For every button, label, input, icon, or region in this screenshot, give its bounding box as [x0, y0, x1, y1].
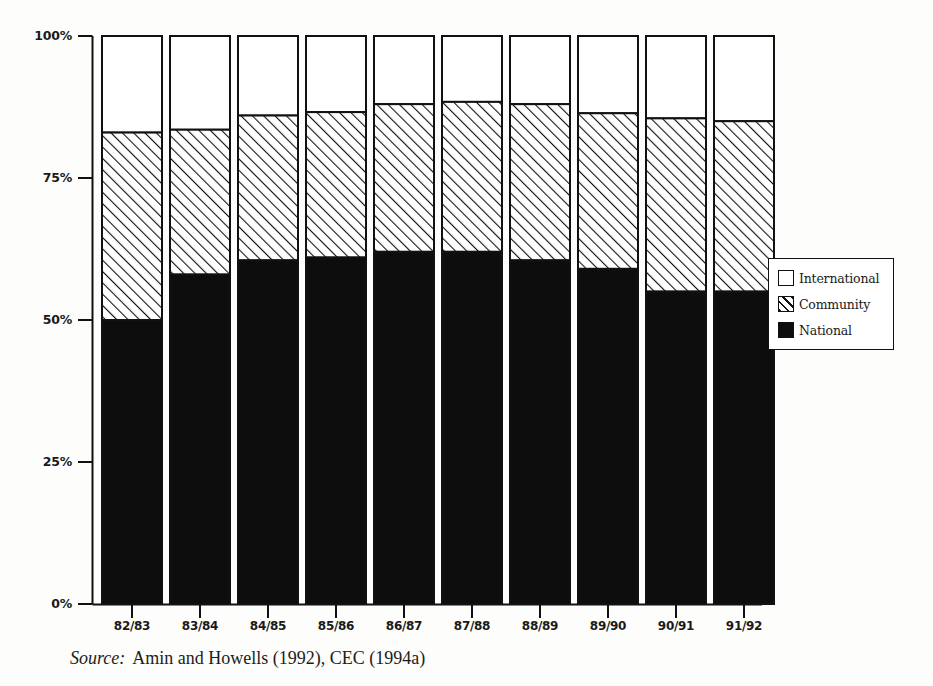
- y-tick-label: 50%: [10, 312, 72, 327]
- bar-column: [374, 36, 434, 604]
- x-tick-label: 86/87: [370, 619, 438, 633]
- x-axis-ticks: [132, 604, 744, 618]
- legend-item-international: International: [778, 265, 893, 291]
- bar-column: [238, 36, 298, 604]
- bar-segment-international: [578, 36, 638, 113]
- bar-segment-national: [374, 252, 434, 604]
- legend-item-national: National: [778, 317, 893, 343]
- bar-segment-community: [646, 118, 706, 291]
- bar-segment-international: [442, 36, 502, 102]
- bar-segment-international: [170, 36, 230, 130]
- bar-segment-international: [238, 36, 298, 116]
- bar-column: [714, 36, 774, 604]
- legend-label-international: International: [799, 271, 879, 286]
- source-prefix: Source:: [70, 648, 125, 668]
- bar-group: [102, 36, 774, 604]
- x-tick-label: 84/85: [234, 619, 302, 633]
- x-tick-label: 83/84: [166, 619, 234, 633]
- bar-segment-community: [578, 113, 638, 269]
- bar-segment-international: [306, 36, 366, 112]
- bar-segment-community: [510, 104, 570, 260]
- bar-segment-community: [714, 121, 774, 291]
- legend-item-community: Community: [778, 291, 893, 317]
- y-tick-label: 25%: [10, 454, 72, 469]
- bar-segment-national: [510, 260, 570, 604]
- bar-column: [646, 36, 706, 604]
- chart-legend: International Community National: [768, 258, 894, 350]
- bar-segment-national: [306, 258, 366, 604]
- source-caption: Source:Amin and Howells (1992), CEC (199…: [70, 648, 425, 669]
- legend-label-national: National: [799, 323, 852, 338]
- bar-column: [170, 36, 230, 604]
- bar-segment-community: [170, 130, 230, 275]
- x-tick-label: 85/86: [302, 619, 370, 633]
- bar-segment-community: [374, 104, 434, 252]
- y-tick-label: 100%: [10, 28, 72, 43]
- x-tick-label: 88/89: [506, 619, 574, 633]
- bar-column: [442, 36, 502, 604]
- x-tick-label: 82/83: [98, 619, 166, 633]
- legend-swatch-national-icon: [778, 322, 794, 338]
- x-tick-label: 89/90: [574, 619, 642, 633]
- source-text: Amin and Howells (1992), CEC (1994a): [132, 648, 425, 668]
- bar-segment-community: [238, 116, 298, 261]
- x-tick-label: 87/88: [438, 619, 506, 633]
- bar-segment-national: [102, 320, 162, 604]
- x-tick-label: 91/92: [710, 619, 778, 633]
- bar-segment-national: [170, 275, 230, 604]
- bar-column: [510, 36, 570, 604]
- bar-segment-international: [374, 36, 434, 104]
- bar-segment-national: [646, 292, 706, 604]
- bar-column: [306, 36, 366, 604]
- legend-swatch-international-icon: [778, 270, 794, 286]
- bar-segment-international: [646, 36, 706, 118]
- bar-segment-community: [442, 102, 502, 252]
- bar-segment-international: [714, 36, 774, 121]
- bar-segment-international: [102, 36, 162, 133]
- bar-segment-national: [442, 252, 502, 604]
- bar-segment-community: [306, 112, 366, 257]
- y-tick-label: 75%: [10, 170, 72, 185]
- bar-segment-national: [578, 269, 638, 604]
- bar-segment-national: [714, 292, 774, 604]
- stacked-bar-chart-figure: 0%25%50%75%100% 82/8383/8484/8585/8686/8…: [0, 0, 933, 686]
- x-tick-label: 90/91: [642, 619, 710, 633]
- y-axis-ticks: [78, 36, 93, 604]
- bar-segment-national: [238, 260, 298, 604]
- legend-swatch-community-icon: [778, 296, 794, 312]
- bar-segment-community: [102, 133, 162, 320]
- y-tick-label: 0%: [10, 596, 72, 611]
- bar-column: [102, 36, 162, 604]
- legend-label-community: Community: [799, 297, 870, 312]
- bar-segment-international: [510, 36, 570, 104]
- bar-column: [578, 36, 638, 604]
